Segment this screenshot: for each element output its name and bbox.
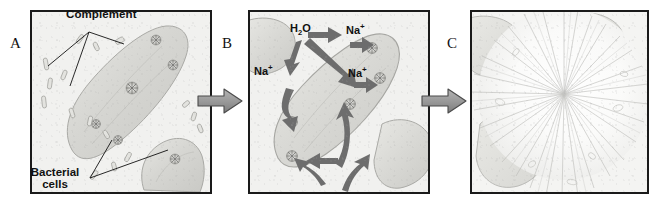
panel-a-texture [32, 12, 210, 192]
panel-letter-a: A [10, 36, 21, 51]
complement-lysis-figure: A [0, 0, 659, 203]
sodium-label-3: Na+ [348, 66, 367, 79]
bacterial-cells-label-line2: cells [24, 178, 86, 190]
bacterial-cells-label: Bacterial cells [24, 166, 86, 190]
water-label: H2O [290, 23, 311, 37]
flow-arrow-b-to-c [420, 86, 468, 116]
complement-label: Complement [66, 8, 137, 20]
bacterial-cells-label-line1: Bacterial [24, 166, 86, 178]
panel-b-texture [250, 12, 428, 192]
panel-b [248, 10, 430, 194]
sodium-label-1: Na+ [254, 64, 273, 77]
panel-c-texture [472, 12, 647, 192]
panel-letter-b: B [222, 36, 232, 51]
sodium-label-2: Na+ [346, 23, 365, 36]
panel-letter-c: C [447, 36, 457, 51]
flow-arrow-a-to-b [196, 86, 244, 116]
panel-c [470, 10, 649, 194]
